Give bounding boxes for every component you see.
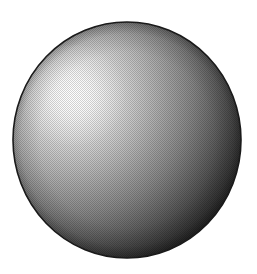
sphere-illustration — [0, 0, 257, 274]
figure-canvas: Grayscale rendering of a sphere with a s… — [0, 0, 257, 274]
